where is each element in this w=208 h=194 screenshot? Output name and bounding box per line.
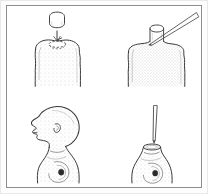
panel-top-right bbox=[128, 13, 199, 87]
panel-bottom-left bbox=[32, 106, 80, 183]
panel-top-left bbox=[35, 12, 80, 86]
detached-cylindrical-plug-icon bbox=[50, 12, 65, 28]
illustration-canvas bbox=[0, 0, 208, 194]
neck-and-shoulder bbox=[132, 147, 172, 183]
neck-and-shoulder bbox=[37, 146, 79, 183]
figure-root: line-drawing-plate bbox=[0, 0, 208, 194]
panel-bottom-right bbox=[132, 106, 172, 184]
vertical-needle-icon bbox=[153, 106, 157, 144]
downward-arrow-icon bbox=[54, 31, 61, 41]
infant-cranium bbox=[32, 106, 80, 148]
stippled-fruit-body bbox=[128, 42, 185, 87]
